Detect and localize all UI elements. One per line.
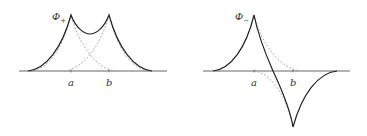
component-b-dashed	[254, 71, 293, 127]
diagram-canvas: Φ+ a b Φ− a b	[0, 0, 367, 136]
tick-label-b: b	[106, 77, 112, 88]
component-a-dashed	[30, 15, 115, 71]
component-b-dashed	[65, 15, 150, 71]
tick-label-a: a	[68, 77, 74, 88]
panel-phi-minus: Φ− a b	[203, 11, 350, 127]
tick-label-a: a	[251, 77, 257, 88]
panel-phi-plus: Φ+ a b	[19, 11, 167, 88]
tick-label-b: b	[290, 77, 296, 88]
phi-plus-label: Φ+	[52, 11, 66, 25]
phi-minus-label: Φ−	[235, 11, 249, 25]
sum-curve	[28, 15, 152, 71]
component-a-dashed	[254, 15, 300, 71]
